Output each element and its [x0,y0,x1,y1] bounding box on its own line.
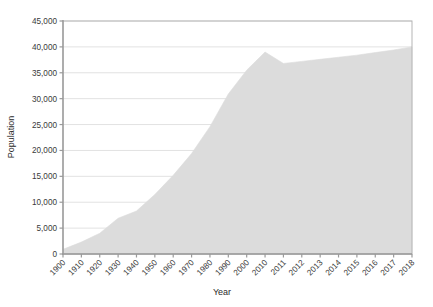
y-tick-label: 10,000 [32,198,57,207]
y-axis-label: Population [6,116,16,159]
y-tick-label: 35,000 [32,69,57,78]
y-tick-label: 40,000 [32,43,57,52]
y-tick-label: 25,000 [32,121,57,130]
y-tick-label: 45,000 [32,17,57,26]
y-tick-label: 20,000 [32,146,57,155]
x-axis-label: Year [213,287,231,297]
chart-canvas: 05,00010,00015,00020,00025,00030,00035,0… [0,0,433,307]
y-tick-label: 30,000 [32,95,57,104]
y-tick-label: 5,000 [37,224,58,233]
y-tick-label: 0 [52,250,57,259]
y-tick-label: 15,000 [32,172,57,181]
population-area-chart: 05,00010,00015,00020,00025,00030,00035,0… [0,0,433,307]
